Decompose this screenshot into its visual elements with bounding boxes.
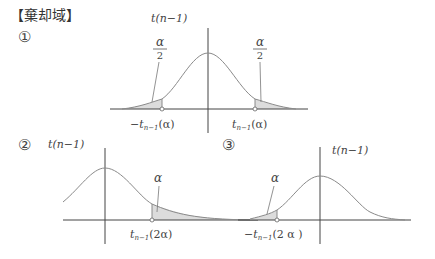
svg-text:tn−1(2α): tn−1(2α) [130, 228, 172, 242]
panel-2-right-tailed: α t(n−1) tn−1(2α) [48, 138, 258, 244]
panel-1-left-alpha: α [156, 35, 164, 49]
panel-3-left-tailed: α t(n−1) −tn−1(2 α ) [238, 144, 411, 244]
panel-1-axis-label: t(n−1) [151, 12, 187, 25]
panel-1-right-alpha: α [256, 35, 264, 49]
svg-text:tn−1(α): tn−1(α) [232, 118, 267, 132]
panel-1-two-sided: α 2 α 2 t(n−1) −tn−1(α) tn−1(α) [110, 12, 308, 133]
svg-text:−tn−1(2 α ): −tn−1(2 α ) [244, 228, 302, 242]
panel-2-alpha: α [154, 171, 162, 185]
panel-3-crit: −t [244, 228, 258, 241]
panel-1-density-curve [122, 53, 296, 109]
panel-3-alpha: α [271, 171, 279, 185]
panel-2-axis-label: t(n−1) [48, 138, 84, 151]
t-distribution-diagrams: α 2 α 2 t(n−1) −tn−1(α) tn−1(α) α t(n−1)… [0, 0, 435, 259]
panel-1-crit-left: −t [130, 118, 144, 131]
panel-1-left-den: 2 [157, 50, 163, 61]
panel-1-right-den: 2 [257, 50, 263, 61]
svg-text:−tn−1(α): −tn−1(α) [130, 118, 174, 132]
panel-3-axis-label: t(n−1) [332, 144, 368, 157]
